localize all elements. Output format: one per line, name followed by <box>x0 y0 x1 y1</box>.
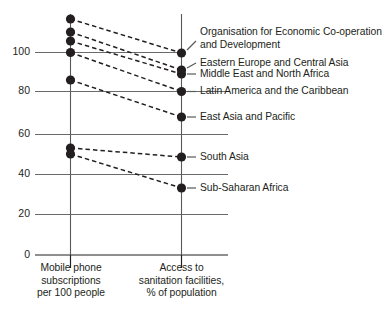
ytick-label-80: 80 <box>0 85 30 96</box>
x-axis-caption-left-line2: subscriptions <box>21 275 121 288</box>
x-axis-caption-right-line3: % of population <box>125 287 238 300</box>
slope-line-south-asia <box>71 148 182 157</box>
slope-line-mena <box>71 41 182 74</box>
series-label-middle-east-north-africa: Middle East and North Africa <box>200 68 329 80</box>
series-label-sub-saharan-africa: Sub-Saharan Africa <box>200 182 288 194</box>
leader-line-oecd <box>187 41 196 50</box>
slope-lines <box>71 19 182 188</box>
leader-line-eeca <box>187 63 196 68</box>
slope-line-ssa <box>71 154 182 188</box>
ytick-label-100: 100 <box>0 46 30 57</box>
marker-left-oecd <box>66 14 75 23</box>
marker-right-ssa <box>177 183 186 192</box>
ytick-label-60: 60 <box>0 128 30 139</box>
marker-left-lac <box>66 48 75 57</box>
series-label-oecd-line2: and Development <box>200 39 280 51</box>
marker-right-lac <box>177 87 186 96</box>
series-label-east-asia-pacific: East Asia and Pacific <box>200 111 295 123</box>
slope-line-oecd <box>71 19 182 53</box>
marker-right-south-asia <box>177 152 186 161</box>
marker-left-mena <box>66 36 75 45</box>
marker-left-ssa <box>66 149 75 158</box>
ytick-label-0: 0 <box>0 249 30 260</box>
x-axis-caption-left-line1: Mobile phone <box>21 262 121 275</box>
slope-chart: 100 80 60 40 20 0 Organisation for Econo… <box>0 0 388 311</box>
ytick-label-20: 20 <box>0 208 30 219</box>
marker-right-eap <box>177 112 186 121</box>
marker-left-eeca <box>66 27 75 36</box>
series-label-latin-america-caribbean: Latin America and the Caribbean <box>200 85 348 97</box>
ytick-label-40: 40 <box>0 168 30 179</box>
x-axis-caption-right-line1: Access to <box>125 262 238 275</box>
series-label-oecd-line1: Organisation for Economic Co-operation <box>200 26 382 38</box>
x-axis-caption-right: Access to sanitation facilities, % of po… <box>125 262 238 300</box>
x-axis-caption-left-line3: per 100 people <box>21 287 121 300</box>
marker-right-mena <box>177 69 186 78</box>
marker-right-oecd <box>177 48 186 57</box>
label-leader-lines <box>187 41 196 188</box>
slope-line-eeca <box>71 32 182 70</box>
x-axis-caption-right-line2: sanitation facilities, <box>125 275 238 288</box>
series-label-south-asia: South Asia <box>200 151 249 163</box>
marker-left-eap <box>66 75 75 84</box>
x-axis-caption-left: Mobile phone subscriptions per 100 peopl… <box>21 262 121 300</box>
